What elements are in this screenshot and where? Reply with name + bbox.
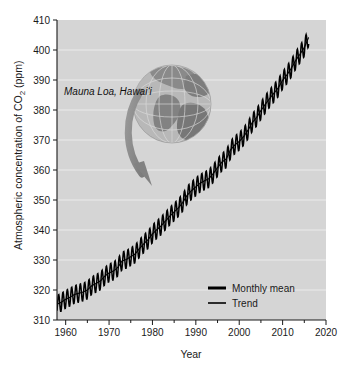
y-tick-label: 360 <box>33 165 50 176</box>
legend-label-trend: Trend <box>232 298 258 309</box>
y-tick-label: 340 <box>33 225 50 236</box>
x-tick-label: 1980 <box>141 327 164 338</box>
x-tick-label: 1960 <box>55 327 78 338</box>
x-axis-title: Year <box>180 348 202 360</box>
y-tick-label: 330 <box>33 255 50 266</box>
y-tick-label: 370 <box>33 135 50 146</box>
x-tick-label: 2020 <box>315 327 338 338</box>
site-annotation: Mauna Loa, Hawaiʻi <box>64 86 153 97</box>
y-tick-label: 380 <box>33 105 50 116</box>
y-tick-label: 320 <box>33 285 50 296</box>
y-tick-label: 410 <box>33 15 50 26</box>
x-tick-label: 2000 <box>228 327 251 338</box>
x-tick-label: 2010 <box>271 327 294 338</box>
x-tick-label: 1990 <box>185 327 208 338</box>
y-axis-title-pre: Atmospheric concentration of CO <box>12 95 24 250</box>
y-tick-label: 350 <box>33 195 50 206</box>
co2-keeling-curve-figure: 310320330340350360370380390400410 196019… <box>0 0 338 372</box>
chart-svg: 310320330340350360370380390400410 196019… <box>0 0 338 372</box>
y-axis-title-post: (ppm) <box>12 61 24 91</box>
legend-label-monthly-mean: Monthly mean <box>232 283 295 294</box>
y-tick-label: 400 <box>33 45 50 56</box>
y-tick-label: 310 <box>33 315 50 326</box>
y-tick-label: 390 <box>33 75 50 86</box>
x-tick-label: 1970 <box>98 327 121 338</box>
